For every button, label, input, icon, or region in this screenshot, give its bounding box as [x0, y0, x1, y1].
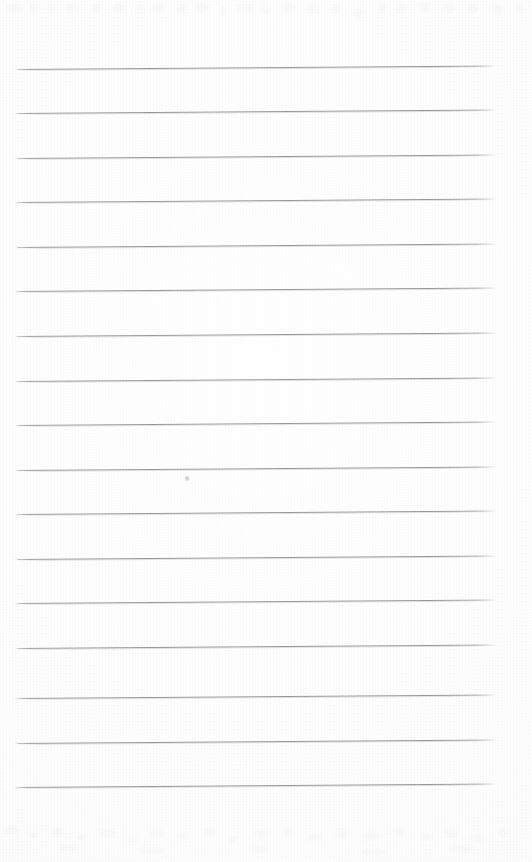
scanned-page [0, 0, 532, 862]
ruled-line [15, 154, 496, 159]
ruled-line [15, 377, 496, 382]
ruled-line [15, 783, 496, 788]
ruled-line [15, 287, 496, 292]
ruled-line [15, 599, 496, 604]
ruled-line [15, 466, 496, 471]
ruled-line [15, 739, 496, 744]
ruled-line [15, 243, 496, 248]
ruled-line [15, 65, 496, 70]
ruled-line [15, 555, 496, 560]
ruled-lines-layer [0, 0, 532, 862]
ruled-line [15, 694, 496, 699]
ruled-line [15, 332, 496, 337]
ruled-line [15, 109, 496, 114]
ruled-line [15, 198, 496, 203]
ruled-line [15, 510, 496, 515]
ruled-line [15, 644, 496, 649]
ruled-line [15, 421, 496, 426]
